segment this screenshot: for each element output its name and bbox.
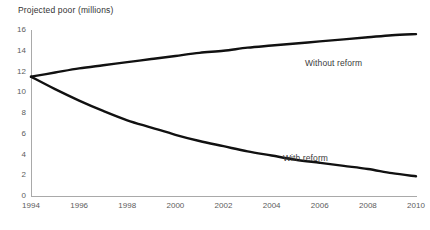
series-label-with-reform: With reform bbox=[283, 153, 328, 163]
line-series-without-reform bbox=[31, 34, 416, 77]
y-tick-label: 6 bbox=[22, 129, 26, 138]
series-canvas bbox=[31, 30, 416, 196]
y-tick-label: 4 bbox=[22, 150, 26, 159]
chart-figure: Projected poor (millions) 0246810121416 … bbox=[0, 0, 430, 230]
y-tick-label: 14 bbox=[17, 46, 26, 55]
x-tick-label: 1994 bbox=[22, 201, 40, 210]
line-series-with-reform bbox=[31, 77, 416, 177]
x-tick-label: 2000 bbox=[166, 201, 184, 210]
y-tick-label: 10 bbox=[17, 87, 26, 96]
y-tick-label: 8 bbox=[22, 108, 26, 117]
x-tick-label: 1996 bbox=[70, 201, 88, 210]
chart-title: Projected poor (millions) bbox=[18, 5, 113, 15]
x-tick-label: 2006 bbox=[311, 201, 329, 210]
x-tick-label: 2008 bbox=[359, 201, 377, 210]
y-tick-label: 2 bbox=[22, 170, 26, 179]
y-tick-label: 16 bbox=[17, 25, 26, 34]
x-tick-label: 2002 bbox=[215, 201, 233, 210]
x-tick-label: 2004 bbox=[263, 201, 281, 210]
x-tick-label: 2010 bbox=[407, 201, 425, 210]
y-tick-label: 0 bbox=[22, 191, 26, 200]
plot-area bbox=[31, 30, 416, 196]
series-label-without-reform: Without reform bbox=[305, 58, 362, 68]
y-tick-label: 12 bbox=[17, 67, 26, 76]
y-axis-tick-labels: 0246810121416 bbox=[0, 0, 26, 230]
x-axis-line bbox=[31, 196, 417, 197]
x-tick-label: 1998 bbox=[118, 201, 136, 210]
